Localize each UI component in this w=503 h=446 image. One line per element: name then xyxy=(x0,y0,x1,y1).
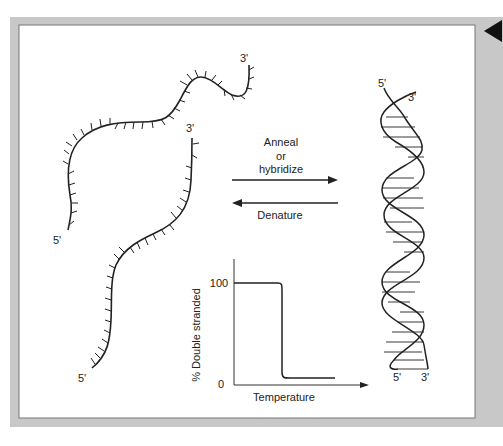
figure-canvas: 5' 3' 5' 3' Anneal or hybridize xyxy=(0,0,503,446)
denature-label: Denature xyxy=(257,209,302,221)
helix-top-5prime-label: 5' xyxy=(378,77,386,89)
helix-bottom-3prime-label: 3' xyxy=(421,371,429,383)
strand-b-5prime-label: 5' xyxy=(78,372,86,384)
hybridize-label: hybridize xyxy=(259,163,303,175)
strand-a-5prime-label: 5' xyxy=(53,234,61,246)
strand-a-3prime-label: 3' xyxy=(240,52,248,64)
x-axis-label: Temperature xyxy=(253,391,315,403)
helix-bottom-5prime-label: 5' xyxy=(393,371,401,383)
helix-top-3prime-label: 3' xyxy=(408,91,416,103)
y-tick-0: 0 xyxy=(218,378,224,390)
strand-b-3prime-label: 3' xyxy=(186,122,194,134)
figure-inner-box xyxy=(19,25,475,418)
y-axis-label: % Double stranded xyxy=(190,288,202,382)
or-label: or xyxy=(276,150,286,162)
y-tick-100: 100 xyxy=(210,277,228,289)
anneal-label: Anneal xyxy=(264,136,298,148)
